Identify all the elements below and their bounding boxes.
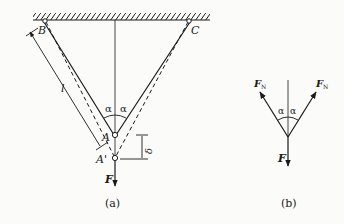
angle-left-a: α xyxy=(105,103,112,114)
bar-BA xyxy=(44,22,114,135)
pin-B xyxy=(43,19,47,23)
force-F-label: F xyxy=(104,173,114,186)
figure-a: l α α B C A A' δ F (a) xyxy=(26,13,210,210)
truss-diagram: l α α B C A A' δ F (a) α α FN xyxy=(0,0,344,224)
pin-A xyxy=(112,132,117,137)
caption-b: (b) xyxy=(281,197,297,210)
label-C: C xyxy=(191,24,200,37)
angle-left-b: α xyxy=(278,106,284,116)
angle-right-b: α xyxy=(290,106,296,116)
length-label: l xyxy=(61,82,65,95)
force-F-b-label: F xyxy=(277,152,287,165)
length-dimension xyxy=(30,32,100,146)
label-A: A xyxy=(101,131,110,144)
angle-right-a: α xyxy=(120,103,127,114)
figure-b: α α FN FN F (b) xyxy=(253,78,328,210)
bar-CA-prime xyxy=(116,22,188,156)
label-B: B xyxy=(37,24,46,37)
caption-a: (a) xyxy=(105,197,120,210)
delta-label: δ xyxy=(143,148,154,154)
bar-CA xyxy=(116,22,190,135)
pin-A-prime xyxy=(112,155,117,160)
pin-C xyxy=(187,19,191,23)
FN-left-label: FN xyxy=(253,78,266,90)
FN-right-label: FN xyxy=(315,78,328,90)
ceiling-hatch xyxy=(33,13,210,20)
label-A-prime: A' xyxy=(95,153,107,166)
